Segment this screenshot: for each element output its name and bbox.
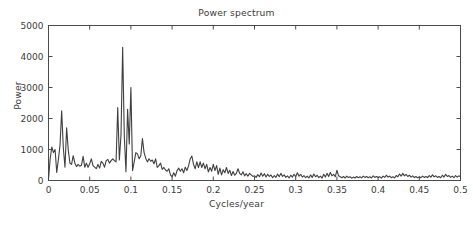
x-tick-label: 0.35 [327,185,347,195]
x-tick-label: 0 [46,185,52,195]
plot-area: 00.050.10.150.20.250.30.350.40.450.5 010… [0,0,473,225]
y-tick-label: 1000 [21,145,44,155]
x-axis-ticks [49,26,461,181]
y-axis-tick-labels: 010002000300040005000 [21,21,44,186]
spectrum-line [49,47,461,179]
x-tick-label: 0.2 [206,185,220,195]
x-tick-label: 0.3 [289,185,303,195]
x-tick-label: 0.4 [371,185,386,195]
y-tick-label: 0 [38,176,44,186]
x-tick-label: 0.5 [453,185,467,195]
x-tick-label: 0.45 [409,185,429,195]
x-tick-label: 0.05 [80,185,100,195]
axes-frame [49,26,461,181]
y-tick-label: 5000 [21,21,44,31]
x-tick-label: 0.25 [244,185,264,195]
x-axis-tick-labels: 00.050.10.150.20.250.30.350.40.450.5 [46,185,468,195]
x-tick-label: 0.15 [162,185,182,195]
y-tick-label: 3000 [21,83,44,93]
power-spectrum-figure: Power spectrum Power Cycles/year 00.050.… [0,0,473,225]
y-tick-label: 2000 [21,114,44,124]
x-tick-label: 0.1 [124,185,138,195]
y-axis-ticks [49,26,461,181]
y-tick-label: 4000 [21,52,44,62]
